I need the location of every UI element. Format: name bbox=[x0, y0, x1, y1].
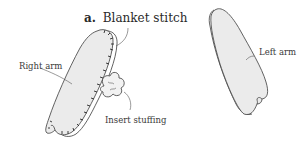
leader-insert-stuffing bbox=[124, 92, 131, 110]
left-arm-piece bbox=[209, 9, 267, 115]
label-right-arm: Right arm bbox=[19, 61, 62, 71]
label-insert-stuffing: Insert stuffing bbox=[105, 115, 167, 125]
step-title: Blanket stitch bbox=[103, 11, 188, 25]
leader-blanket-stitch bbox=[116, 28, 128, 46]
sewing-diagram: a. Blanket stitch Right arm Insert stuff… bbox=[0, 0, 307, 154]
step-heading: a. Blanket stitch bbox=[84, 11, 188, 25]
label-left-arm: Left arm bbox=[259, 47, 296, 57]
left-arm-front-layer bbox=[211, 9, 268, 115]
step-marker: a. bbox=[84, 11, 96, 25]
